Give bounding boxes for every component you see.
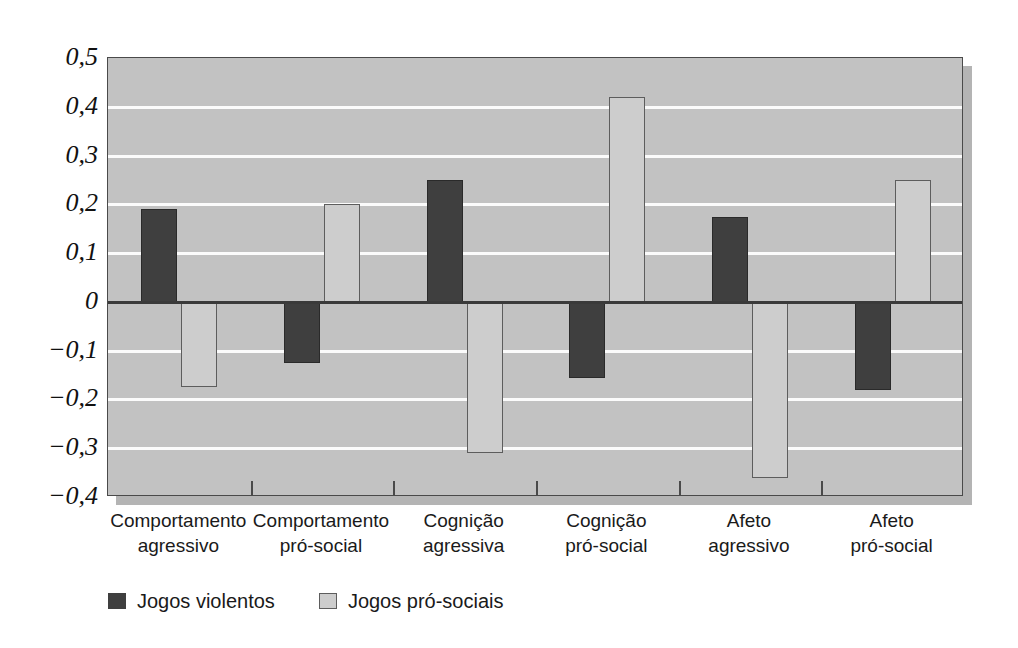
x-category-line2: pró-social — [535, 533, 678, 558]
x-category-label: Afetopró-social — [820, 508, 963, 558]
y-tick-label: −0,3 — [6, 432, 98, 462]
y-tick-label: 0,2 — [6, 188, 98, 218]
y-tick-label: 0,3 — [6, 140, 98, 170]
gridline — [108, 447, 962, 450]
y-tick-label: −0,2 — [6, 383, 98, 413]
x-category-label: Cogniçãopró-social — [535, 508, 678, 558]
bar-pro-sociais-4 — [752, 302, 788, 478]
x-category-line2: agressivo — [107, 533, 250, 558]
bar-pro-sociais-1 — [324, 204, 360, 302]
x-category-line2: agressivo — [678, 533, 821, 558]
legend: Jogos violentosJogos pró-sociais — [108, 586, 548, 616]
x-category-line2: agressiva — [392, 533, 535, 558]
y-tick-label: 0,1 — [6, 237, 98, 267]
legend-swatch-icon — [319, 593, 337, 609]
y-tick-label: −0,1 — [6, 335, 98, 365]
y-tick-label: 0 — [6, 286, 98, 316]
bar-violentos-1 — [284, 302, 320, 363]
gridline — [108, 252, 962, 255]
x-category-line1: Cognição — [424, 510, 504, 531]
bar-violentos-0 — [141, 209, 177, 302]
bar-violentos-5 — [855, 302, 891, 390]
x-axis-tick — [821, 481, 823, 495]
bar-pro-sociais-2 — [467, 302, 503, 453]
y-tick-label: 0,5 — [6, 42, 98, 72]
x-category-label: Comportamentopró-social — [250, 508, 393, 558]
bar-pro-sociais-3 — [609, 97, 645, 302]
x-category-line2: pró-social — [820, 533, 963, 558]
x-axis-tick — [251, 481, 253, 495]
x-axis-tick — [393, 481, 395, 495]
bar-chart-figure: 0,50,40,30,20,10−0,1−0,2−0,3−0,4 Comport… — [0, 0, 1018, 648]
gridline — [108, 106, 962, 109]
x-category-line1: Afeto — [727, 510, 771, 531]
x-category-line1: Cognição — [566, 510, 646, 531]
legend-label: Jogos violentos — [137, 590, 275, 613]
gridline — [108, 350, 962, 353]
legend-item-violentos[interactable]: Jogos violentos — [108, 590, 275, 613]
bar-violentos-3 — [569, 302, 605, 378]
y-axis: 0,50,40,30,20,10−0,1−0,2−0,3−0,4 — [0, 0, 98, 648]
plot-area — [107, 57, 963, 496]
x-axis-tick — [679, 481, 681, 495]
x-category-line1: Afeto — [869, 510, 913, 531]
legend-item-pro-sociais[interactable]: Jogos pró-sociais — [319, 590, 504, 613]
zero-line — [108, 301, 962, 304]
y-tick-label: −0,4 — [6, 481, 98, 511]
legend-swatch-icon — [108, 593, 126, 609]
x-category-label: Afetoagressivo — [678, 508, 821, 558]
bar-violentos-2 — [427, 180, 463, 302]
x-category-line2: pró-social — [250, 533, 393, 558]
bar-pro-sociais-0 — [181, 302, 217, 387]
gridline — [108, 155, 962, 158]
bar-pro-sociais-5 — [895, 180, 931, 302]
gridline — [108, 203, 962, 206]
gridline — [108, 398, 962, 401]
x-axis-tick — [536, 481, 538, 495]
legend-label: Jogos pró-sociais — [348, 590, 504, 613]
x-category-label: Comportamentoagressivo — [107, 508, 250, 558]
y-tick-label: 0,4 — [6, 91, 98, 121]
x-category-line1: Comportamento — [253, 510, 389, 531]
x-category-label: Cogniçãoagressiva — [392, 508, 535, 558]
x-category-line1: Comportamento — [110, 510, 246, 531]
bar-violentos-4 — [712, 217, 748, 302]
